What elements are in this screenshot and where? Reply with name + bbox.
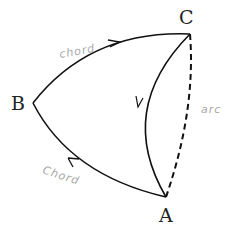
vertex-label-a: A — [158, 204, 173, 226]
edge-c-to-a-curve — [145, 34, 190, 197]
annotation-arc: arc — [201, 103, 221, 116]
vertex-label-b: B — [11, 92, 25, 114]
arrow-a-to-b-icon — [68, 158, 79, 167]
annotation-chord-top: chord — [58, 42, 96, 61]
diagram-canvas: C B A chord arc Chord — [0, 0, 237, 230]
vertex-label-c: C — [179, 6, 194, 28]
annotation-chord-bottom: Chord — [41, 163, 81, 187]
arrow-c-to-a-icon — [136, 96, 143, 107]
edge-b-to-c — [33, 34, 190, 103]
